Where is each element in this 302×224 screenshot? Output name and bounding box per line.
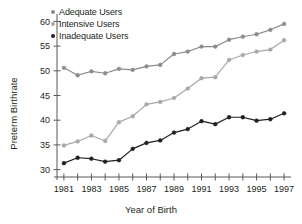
y-axis-tick-label: 45 bbox=[40, 91, 50, 101]
y-axis-tick-label: 40 bbox=[40, 115, 50, 125]
legend-item-inadequate-users: Inadequate Users bbox=[51, 30, 128, 42]
y-axis-tick-label: 35 bbox=[40, 140, 50, 150]
x-axis-tick-label: 1997 bbox=[274, 184, 294, 194]
data-point-marker bbox=[103, 139, 107, 143]
data-point-marker bbox=[76, 73, 80, 77]
data-point-marker bbox=[172, 52, 176, 56]
data-point-marker bbox=[200, 45, 204, 49]
x-axis-tick-label: 1989 bbox=[164, 184, 184, 194]
data-point-marker bbox=[103, 71, 107, 75]
data-point-marker bbox=[213, 45, 217, 49]
data-point-marker bbox=[76, 140, 80, 144]
data-point-marker bbox=[213, 122, 217, 126]
data-point-marker bbox=[241, 53, 245, 57]
data-point-marker bbox=[117, 158, 121, 162]
data-point-marker bbox=[268, 48, 272, 52]
legend-label-adequate-users: Adequate Users bbox=[59, 8, 122, 17]
data-point-marker bbox=[131, 114, 135, 118]
data-point-marker bbox=[282, 22, 286, 26]
series-inadequate-users bbox=[62, 111, 286, 165]
y-axis-title: Preterm Birthrate bbox=[8, 49, 19, 179]
data-point-marker bbox=[103, 160, 107, 164]
data-point-marker bbox=[145, 141, 149, 145]
data-point-marker bbox=[282, 111, 286, 115]
legend-item-intensive-users: Intensive Users bbox=[51, 18, 128, 30]
data-point-marker bbox=[90, 69, 94, 73]
data-point-marker bbox=[268, 28, 272, 32]
legend-label-intensive-users: Intensive Users bbox=[59, 20, 120, 29]
legend-marker-inadequate-users bbox=[51, 34, 55, 38]
data-point-marker bbox=[158, 139, 162, 143]
legend-marker-adequate-users bbox=[51, 10, 55, 14]
data-point-marker bbox=[62, 161, 66, 165]
legend-marker-intensive-users bbox=[51, 22, 55, 26]
data-point-marker bbox=[186, 87, 190, 91]
legend-label-inadequate-users: Inadequate Users bbox=[59, 32, 128, 41]
data-point-marker bbox=[158, 100, 162, 104]
data-point-marker bbox=[90, 134, 94, 138]
chart-figure: 3035404550556019811983198519871989199119… bbox=[0, 0, 302, 224]
data-point-marker bbox=[172, 96, 176, 100]
data-point-marker bbox=[145, 64, 149, 68]
x-axis-tick-label: 1987 bbox=[136, 184, 156, 194]
legend-item-adequate-users: Adequate Users bbox=[51, 6, 128, 18]
y-axis-tick-label: 30 bbox=[40, 165, 50, 175]
data-point-marker bbox=[227, 115, 231, 119]
data-point-marker bbox=[227, 38, 231, 42]
data-point-marker bbox=[131, 147, 135, 151]
data-point-marker bbox=[62, 66, 66, 70]
y-axis-tick-label: 50 bbox=[40, 66, 50, 76]
data-point-marker bbox=[213, 75, 217, 79]
data-point-marker bbox=[255, 50, 259, 54]
data-point-marker bbox=[186, 127, 190, 131]
y-axis-tick-label: 55 bbox=[40, 41, 50, 51]
x-axis-tick-label: 1981 bbox=[54, 184, 74, 194]
x-axis-tick-label: 1983 bbox=[81, 184, 101, 194]
x-axis-tick-label: 1991 bbox=[192, 184, 212, 194]
data-point-marker bbox=[145, 102, 149, 106]
data-point-marker bbox=[117, 120, 121, 124]
data-point-marker bbox=[172, 131, 176, 135]
x-axis-tick-label: 1985 bbox=[109, 184, 129, 194]
data-point-marker bbox=[76, 156, 80, 160]
data-point-marker bbox=[241, 35, 245, 39]
data-point-marker bbox=[268, 117, 272, 121]
data-point-marker bbox=[62, 143, 66, 147]
x-axis-title: Year of Birth bbox=[0, 204, 302, 215]
data-point-marker bbox=[158, 63, 162, 67]
chart-legend: Adequate Users Intensive Users Inadequat… bbox=[51, 6, 128, 42]
line-chart-plot: 3035404550556019811983198519871989199119… bbox=[0, 0, 302, 224]
data-point-marker bbox=[186, 50, 190, 54]
data-point-marker bbox=[227, 58, 231, 62]
x-axis-tick-label: 1995 bbox=[247, 184, 267, 194]
data-point-marker bbox=[117, 67, 121, 71]
y-axis-tick-label: 60 bbox=[40, 17, 50, 27]
data-point-marker bbox=[282, 38, 286, 42]
data-point-marker bbox=[255, 119, 259, 123]
data-point-marker bbox=[255, 32, 259, 36]
data-point-marker bbox=[90, 157, 94, 161]
data-point-marker bbox=[131, 68, 135, 72]
data-point-marker bbox=[200, 76, 204, 80]
data-point-marker bbox=[200, 119, 204, 123]
data-point-marker bbox=[241, 115, 245, 119]
x-axis-tick-label: 1993 bbox=[219, 184, 239, 194]
